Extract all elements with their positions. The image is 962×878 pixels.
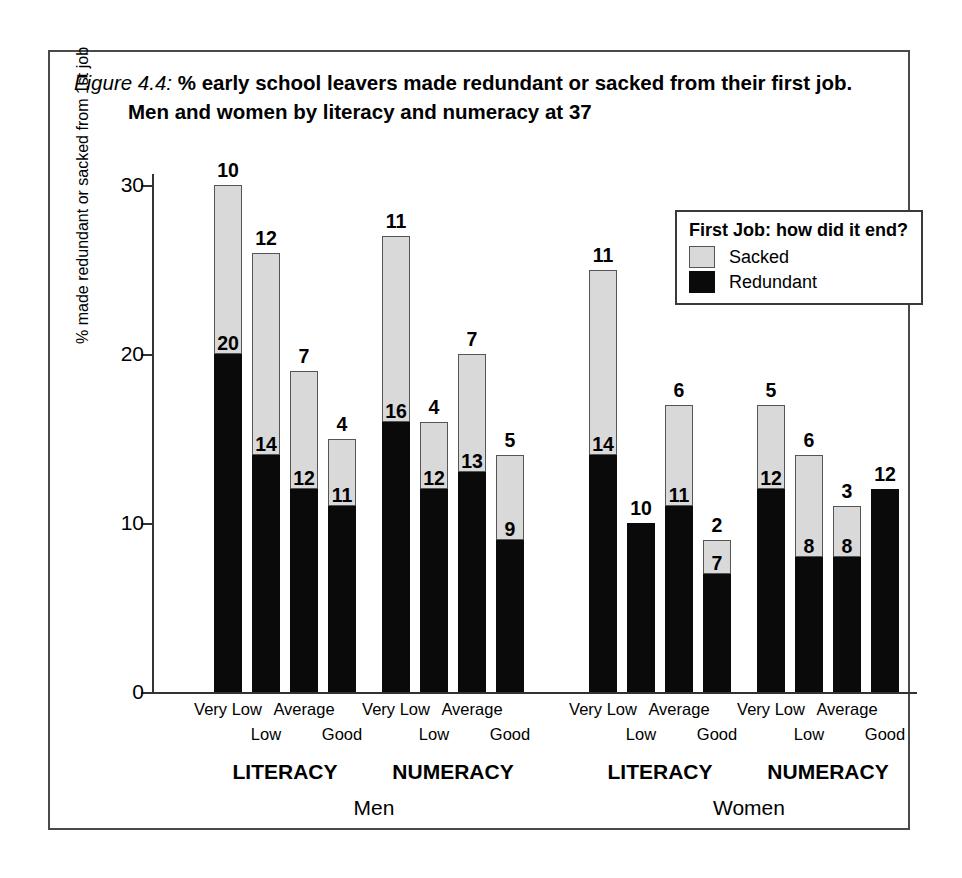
bar-women-numeracy-low[interactable] [795, 455, 823, 692]
bar-label-redundant: 12 [414, 468, 454, 488]
bar-segment-redundant [420, 489, 448, 692]
bar-label-redundant: 13 [452, 451, 492, 471]
bar-label-top: 3 [827, 481, 867, 501]
title-line-1: Figure 4.4: % early school leavers made … [74, 68, 884, 97]
bar-label-redundant: 16 [376, 401, 416, 421]
bar-segment-redundant [496, 540, 524, 692]
x-group-label-numeracy-3: NUMERACY [718, 760, 938, 784]
bar-segment-redundant [795, 557, 823, 692]
bar-men-literacy-good[interactable] [328, 439, 356, 693]
x-category-label: Good [455, 725, 565, 744]
bar-women-literacy-low[interactable] [627, 523, 655, 692]
bar-label-top: 11 [583, 245, 623, 265]
bar-segment-redundant [252, 455, 280, 692]
bar-label-top: 12 [246, 228, 286, 248]
bar-segment-redundant [214, 354, 242, 692]
bar-label-redundant: 12 [751, 468, 791, 488]
bar-label-top: 5 [490, 430, 530, 450]
bar-segment-redundant [290, 489, 318, 692]
bar-label-top: 11 [376, 211, 416, 231]
bar-women-numeracy-average[interactable] [833, 506, 861, 692]
bar-segment-redundant [589, 455, 617, 692]
figure-title: Figure 4.4: % early school leavers made … [74, 68, 884, 126]
bar-label-top: 7 [284, 346, 324, 366]
bar-segment-sacked [382, 236, 410, 422]
bar-segment-redundant [703, 574, 731, 692]
y-tick-label: 10 [121, 511, 144, 535]
bar-segment-redundant [757, 489, 785, 692]
title-line-2: Men and women by literacy and numeracy a… [74, 97, 884, 126]
y-axis-title: % made redundant or sacked from 1st job [74, 47, 92, 344]
x-category-label: Good [830, 725, 940, 744]
bar-men-numeracy-very-low[interactable] [382, 236, 410, 692]
bar-label-top: 5 [751, 380, 791, 400]
bar-men-literacy-low[interactable] [252, 253, 280, 692]
bar-label-top: 2 [697, 515, 737, 535]
bar-segment-redundant [458, 472, 486, 692]
bar-label-redundant: 11 [322, 485, 362, 505]
bar-segment-redundant [665, 506, 693, 692]
y-tick-label: 20 [121, 342, 144, 366]
bar-label-redundant: 20 [208, 333, 248, 353]
y-tick-label: 30 [121, 173, 144, 197]
bar-segment-sacked [252, 253, 280, 456]
bar-women-literacy-average[interactable] [665, 405, 693, 692]
bar-segment-sacked [589, 270, 617, 456]
bar-label-redundant: 8 [789, 536, 829, 556]
bar-men-literacy-average[interactable] [290, 371, 318, 692]
bar-men-numeracy-average[interactable] [458, 354, 486, 692]
bar-label-top: 4 [414, 397, 454, 417]
bar-label-redundant: 11 [659, 485, 699, 505]
bar-label-top: 10 [621, 498, 661, 518]
bar-women-literacy-very-low[interactable] [589, 270, 617, 693]
x-group-label-numeracy-1: NUMERACY [343, 760, 563, 784]
bar-label-top: 6 [789, 430, 829, 450]
bar-women-numeracy-very-low[interactable] [757, 405, 785, 692]
plot-area: % made redundant or sacked from 1st job … [152, 174, 938, 692]
bar-segment-redundant [382, 422, 410, 692]
bar-label-redundant: 14 [583, 434, 623, 454]
bar-segment-redundant [627, 523, 655, 692]
x-category-label: Average [417, 700, 527, 719]
bar-men-literacy-very-low[interactable] [214, 185, 242, 692]
bar-segment-redundant [833, 557, 861, 692]
bar-label-top: 12 [865, 464, 905, 484]
x-axis-line [152, 692, 917, 694]
y-tick-label: 0 [132, 680, 144, 704]
bar-label-top: 7 [452, 329, 492, 349]
x-category-label: Average [792, 700, 902, 719]
bar-men-numeracy-good[interactable] [496, 455, 524, 692]
y-axis-line [152, 174, 154, 693]
bar-label-redundant: 12 [284, 468, 324, 488]
x-panel-label-men: Men [244, 796, 504, 820]
bar-label-top: 10 [208, 160, 248, 180]
bar-label-redundant: 8 [827, 536, 867, 556]
bar-label-redundant: 7 [697, 553, 737, 573]
bar-label-redundant: 14 [246, 434, 286, 454]
title-text-1: % early school leavers made redundant or… [178, 71, 852, 94]
bar-label-top: 4 [322, 414, 362, 434]
bar-women-numeracy-good[interactable] [871, 489, 899, 692]
bar-segment-redundant [871, 489, 899, 692]
bar-segment-sacked [214, 185, 242, 354]
bar-label-top: 6 [659, 380, 699, 400]
bar-segment-redundant [328, 506, 356, 692]
bar-label-redundant: 9 [490, 519, 530, 539]
bar-men-numeracy-low[interactable] [420, 422, 448, 692]
figure-frame: Figure 4.4: % early school leavers made … [48, 50, 910, 830]
x-panel-label-women: Women [619, 796, 879, 820]
